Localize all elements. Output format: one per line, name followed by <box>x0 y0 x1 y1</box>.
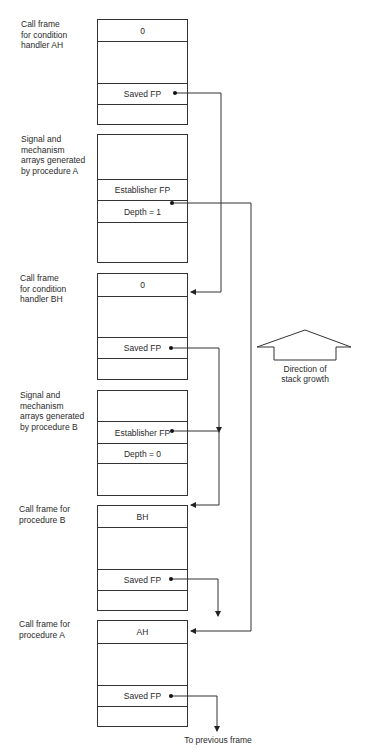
stack-growth-arrow-icon <box>257 330 351 360</box>
to-previous-frame-label: To previous frame <box>183 735 253 745</box>
stack-growth-caption: Direction of stack growth <box>270 364 340 384</box>
